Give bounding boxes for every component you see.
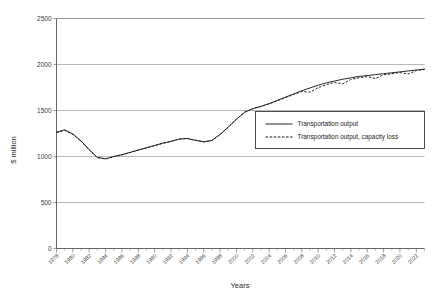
legend-label-transportation-output-capacity-loss: Transportation output, capacity loss [298, 133, 399, 141]
y-tick-label-1000: 1000 [37, 153, 52, 160]
y-tick-label-0: 0 [48, 245, 52, 252]
y-tick-label-2000: 2000 [37, 61, 52, 68]
chart-legend: Transportation output Transportation out… [256, 112, 425, 149]
line-chart: 05001000150020002500 1978198019821984198… [0, 0, 436, 299]
y-axis-title: $ million [9, 136, 18, 164]
y-tick-label-1500: 1500 [37, 107, 52, 114]
chart-figure: 05001000150020002500 1978198019821984198… [0, 0, 436, 299]
x-axis-title: Years [231, 281, 250, 290]
legend-label-transportation-output: Transportation output [298, 120, 359, 128]
y-tick-label-2500: 2500 [37, 15, 52, 22]
legend-box [256, 112, 425, 149]
y-tick-label-500: 500 [41, 199, 52, 206]
